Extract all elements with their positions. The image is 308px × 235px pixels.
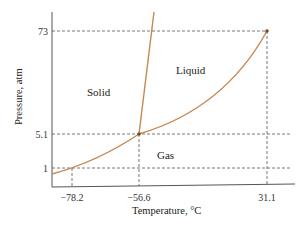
- triple-point-marker: [137, 132, 141, 136]
- critical-point-marker: [265, 29, 269, 33]
- x-tick-label: 31.1: [258, 192, 276, 203]
- sublimation-curve: [52, 134, 139, 174]
- y-tick-label: 5.1: [36, 129, 49, 140]
- y-tick-label: 1: [43, 163, 48, 174]
- melting-curve: [139, 12, 154, 134]
- y-axis-title: Pressure, atm: [13, 68, 24, 125]
- x-axis-title: Temperature, °C: [132, 205, 201, 216]
- region-label-solid: Solid: [87, 86, 111, 98]
- region-label-gas: Gas: [157, 149, 174, 161]
- y-tick-label: 73: [38, 26, 48, 37]
- x-tick-label: −78.2: [60, 192, 83, 203]
- phase-diagram: −78.2−56.631.115.173 Solid Liquid Gas Te…: [0, 0, 308, 235]
- region-label-liquid: Liquid: [176, 64, 206, 76]
- x-axis: [52, 184, 295, 187]
- vaporization-curve: [139, 31, 267, 134]
- x-tick-label: −56.6: [127, 192, 150, 203]
